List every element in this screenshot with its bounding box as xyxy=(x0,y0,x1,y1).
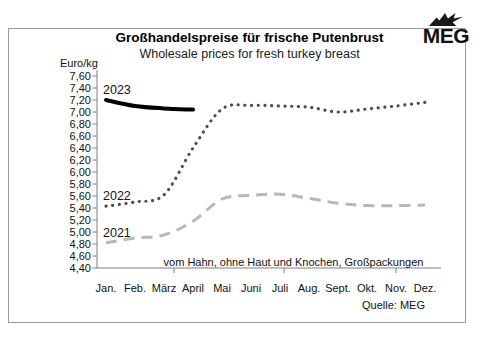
series-label-2023: 2023 xyxy=(103,83,131,97)
x-tick-label: Dez. xyxy=(403,282,447,294)
series-label-2021: 2021 xyxy=(103,226,131,240)
series-line-2023 xyxy=(106,100,193,110)
y-tick-label: 4,40 xyxy=(54,262,91,275)
source-label: Quelle: MEG xyxy=(362,299,425,311)
series-label-2022: 2022 xyxy=(103,189,131,203)
chart-footnote: vom Hahn, ohne Haut und Knochen, Großpac… xyxy=(150,256,437,268)
series-line-2022 xyxy=(106,102,425,206)
